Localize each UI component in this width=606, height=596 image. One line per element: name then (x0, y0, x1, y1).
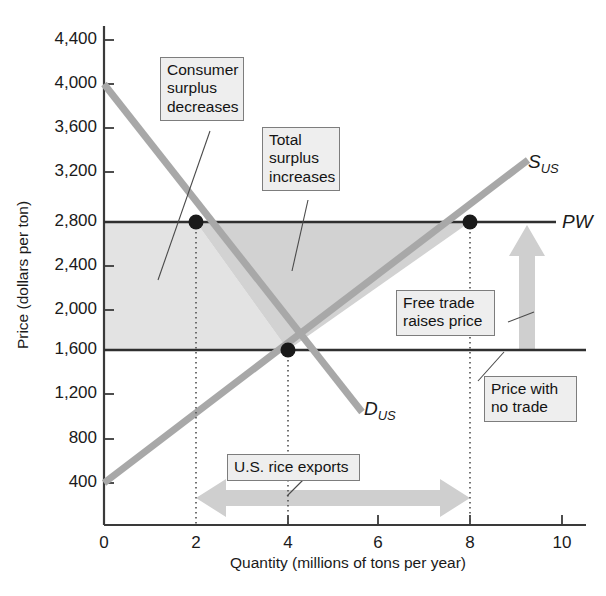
rice-export-diagram: 4,400 4,000 3,600 3,200 2,800 2,400 2,00… (0, 0, 606, 596)
y-tick-1200: 1,200 (54, 383, 97, 402)
y-axis-title: Price (dollars per ton) (14, 201, 31, 349)
callout-total-surplus: Total surplus increases (262, 127, 340, 191)
y-axis-tick-labels: 4,400 4,000 3,600 3,200 2,800 2,400 2,00… (54, 29, 97, 491)
y-tick-400: 400 (69, 472, 97, 491)
x-tick-6: 6 (373, 533, 382, 552)
x-axis-tick-labels: 0 2 4 6 8 10 (99, 533, 571, 552)
x-tick-4: 4 (283, 533, 292, 552)
callout-us-rice-exports: U.S. rice exports (227, 454, 360, 481)
x-axis-title: Quantity (millions of tons per year) (230, 554, 466, 571)
callout-free-trade: Free trade raises price (396, 290, 495, 336)
supply-curve-label: SUS (528, 151, 559, 176)
y-tick-800: 800 (69, 428, 97, 447)
marker-no-trade-equilibrium (281, 343, 296, 358)
callout-consumer-surplus: Consumer surplus decreases (160, 57, 244, 121)
exports-span-arrow (196, 479, 470, 517)
price-rise-arrow (509, 225, 545, 350)
x-tick-0: 0 (99, 533, 108, 552)
y-tick-3200: 3,200 (54, 161, 97, 180)
y-tick-4000: 4,000 (54, 73, 97, 92)
y-tick-3600: 3,600 (54, 117, 97, 136)
demand-curve-label: DUS (364, 398, 396, 423)
marker-supply-at-world-price (463, 215, 478, 230)
x-tick-8: 8 (465, 533, 474, 552)
x-tick-10: 10 (553, 533, 572, 552)
marker-demand-at-world-price (189, 215, 204, 230)
world-price-label: PW (562, 211, 595, 232)
chart-canvas: 4,400 4,000 3,600 3,200 2,800 2,400 2,00… (0, 0, 606, 596)
y-tick-1600: 1,600 (54, 339, 97, 358)
callout-no-trade-price: Price with no trade (484, 376, 577, 422)
y-tick-4400: 4,400 (54, 29, 97, 48)
y-tick-2000: 2,000 (54, 299, 97, 318)
x-axis-ticks (288, 515, 562, 525)
x-tick-2: 2 (191, 533, 200, 552)
y-tick-2800: 2,800 (54, 211, 97, 230)
y-tick-2400: 2,400 (54, 255, 97, 274)
